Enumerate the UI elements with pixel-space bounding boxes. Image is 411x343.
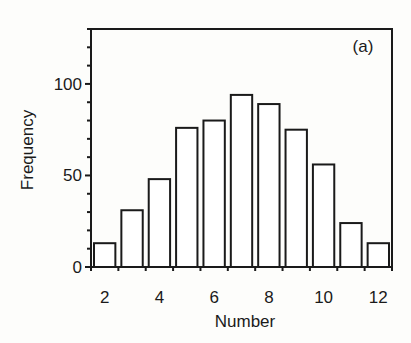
y-axis-ticks: 050100 xyxy=(54,29,91,277)
x-axis-title: Number xyxy=(215,312,276,331)
x-axis-ticks: 24681012 xyxy=(91,267,392,307)
y-tick-label: 50 xyxy=(63,166,82,185)
bar-9 xyxy=(286,130,307,267)
x-tick-label: 8 xyxy=(264,288,273,307)
bars-group xyxy=(94,95,389,267)
bar-6 xyxy=(203,121,224,267)
panel-annotation: (a) xyxy=(353,37,374,56)
bar-11 xyxy=(340,223,361,267)
histogram-chart: 050100 24681012 (a) Number Frequency xyxy=(0,0,411,343)
bar-2 xyxy=(94,243,115,267)
x-tick-label: 4 xyxy=(155,288,164,307)
bar-8 xyxy=(258,104,279,267)
y-axis-title: Frequency xyxy=(18,109,37,190)
bar-5 xyxy=(176,128,197,267)
x-tick-label: 10 xyxy=(314,288,333,307)
bar-4 xyxy=(149,179,170,267)
y-tick-label: 100 xyxy=(54,75,82,94)
bar-10 xyxy=(313,164,334,267)
bar-7 xyxy=(231,95,252,267)
x-tick-label: 2 xyxy=(100,288,109,307)
y-tick-label: 0 xyxy=(73,258,82,277)
bar-12 xyxy=(368,243,389,267)
x-tick-label: 12 xyxy=(369,288,388,307)
x-tick-label: 6 xyxy=(209,288,218,307)
bar-3 xyxy=(121,210,142,267)
